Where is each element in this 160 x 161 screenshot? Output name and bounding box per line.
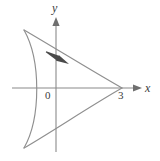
y-axis-arrowhead [52, 17, 59, 26]
curve-group [24, 30, 122, 148]
x-cusp-value-label: 3 [118, 90, 124, 101]
direction-arrow-icon [45, 49, 71, 67]
curve-plot-svg [0, 0, 160, 161]
x-axis-arrowhead [133, 84, 142, 91]
direction-arrow-tail [45, 49, 60, 60]
origin-label: 0 [45, 90, 51, 101]
curve-lower-branch [24, 88, 122, 148]
x-axis-label: x [145, 82, 150, 94]
curve-left-branch [24, 30, 37, 148]
curve-upper-branch [24, 30, 122, 88]
y-axis-group [52, 17, 59, 152]
y-axis-label: y [52, 2, 57, 14]
figure-container: y x 0 3 [0, 0, 160, 161]
